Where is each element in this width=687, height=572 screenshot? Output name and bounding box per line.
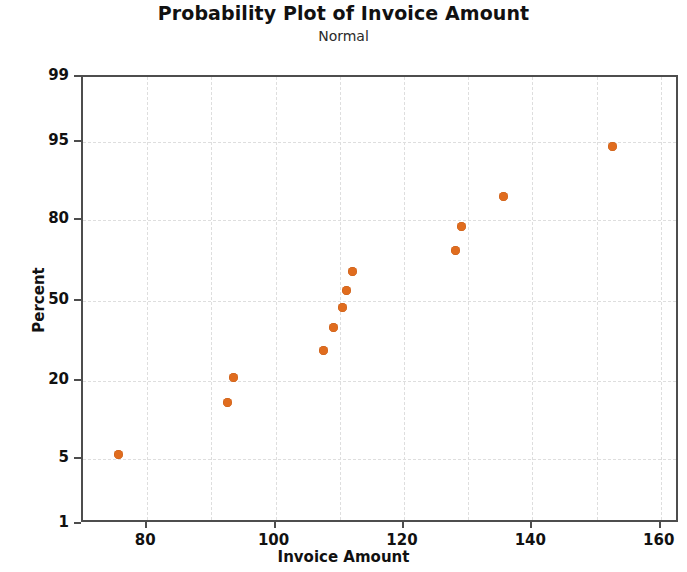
y-tick-mark — [74, 522, 81, 524]
chart-subtitle: Normal — [0, 28, 687, 44]
y-tick-label: 1 — [29, 513, 69, 531]
x-tick-label: 120 — [372, 531, 432, 549]
plot-area — [81, 75, 678, 522]
data-point — [114, 450, 123, 459]
gridline-horizontal — [83, 220, 676, 221]
data-point — [608, 142, 617, 151]
y-tick-mark — [74, 299, 81, 301]
data-point — [338, 303, 347, 312]
y-tick-mark — [74, 379, 81, 381]
x-tick-mark — [274, 522, 276, 528]
x-tick-label: 80 — [115, 531, 175, 549]
gridline-horizontal — [83, 381, 676, 382]
x-axis-title: Invoice Amount — [0, 548, 687, 566]
x-tick-mark — [530, 522, 532, 528]
y-tick-mark — [74, 457, 81, 459]
y-tick-mark — [74, 75, 81, 77]
y-tick-mark — [74, 218, 81, 220]
data-point — [451, 246, 460, 255]
x-tick-label: 100 — [244, 531, 304, 549]
y-tick-label: 99 — [29, 66, 69, 84]
probability-plot: Probability Plot of Invoice Amount Norma… — [0, 0, 687, 572]
data-point — [329, 323, 338, 332]
data-point — [499, 192, 508, 201]
x-tick-mark — [402, 522, 404, 528]
x-tick-label: 160 — [629, 531, 687, 549]
data-point — [457, 222, 466, 231]
gridline-horizontal — [83, 142, 676, 143]
data-point — [348, 267, 357, 276]
y-tick-label: 95 — [29, 131, 69, 149]
x-tick-mark — [659, 522, 661, 528]
y-tick-label: 20 — [29, 370, 69, 388]
gridline-horizontal — [83, 301, 676, 302]
gridline-horizontal — [83, 459, 676, 460]
data-point — [342, 286, 351, 295]
y-tick-label: 80 — [29, 209, 69, 227]
x-tick-label: 140 — [500, 531, 560, 549]
chart-title: Probability Plot of Invoice Amount — [0, 2, 687, 24]
data-point — [223, 398, 232, 407]
y-tick-mark — [74, 140, 81, 142]
x-tick-mark — [145, 522, 147, 528]
y-tick-label: 5 — [29, 448, 69, 466]
data-point — [319, 346, 328, 355]
y-tick-label: 50 — [29, 290, 69, 308]
